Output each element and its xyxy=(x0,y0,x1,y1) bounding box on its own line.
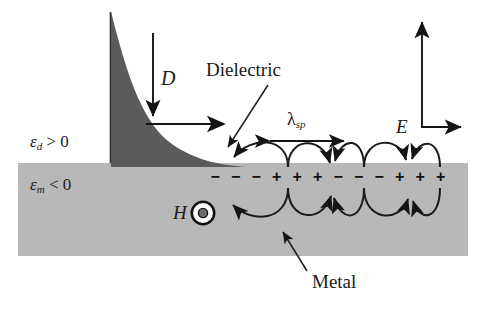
negative-charge-symbol: − xyxy=(369,169,390,185)
dielectric-label: Dielectric xyxy=(206,60,281,79)
metal-label: Metal xyxy=(312,272,356,291)
negative-charge-symbol: − xyxy=(349,169,370,185)
field-decay-profile xyxy=(111,12,248,167)
epsilon-symbol: ε xyxy=(30,132,37,151)
epsilon-subscript: m xyxy=(37,183,45,195)
positive-charge-symbol: + xyxy=(308,169,329,185)
positive-charge-symbol: + xyxy=(267,169,288,185)
lambda-subscript: sp xyxy=(296,118,306,130)
positive-charge-symbol: + xyxy=(390,169,411,185)
epsilon-relation: > 0 xyxy=(46,132,68,151)
lambda-symbol: λ xyxy=(287,109,296,129)
positive-charge-symbol: + xyxy=(431,169,452,185)
dielectric-leader-line xyxy=(228,85,268,147)
positive-charge-symbol: + xyxy=(410,169,431,185)
negative-charge-symbol: − xyxy=(226,169,247,185)
spp-wavelength-label: λsp xyxy=(287,110,306,130)
magnetic-field-label: H xyxy=(173,203,187,222)
interface-charge-row: −−−+++−−−+++ xyxy=(205,169,451,185)
diagram-graphics xyxy=(0,0,489,316)
magnetic-field-out-of-page-icon xyxy=(192,202,215,225)
displacement-field-label: D xyxy=(161,68,175,88)
epsilon-metal-label: εm < 0 xyxy=(30,176,71,195)
epsilon-symbol: ε xyxy=(30,175,37,194)
negative-charge-symbol: − xyxy=(205,169,226,185)
epsilon-dielectric-label: εd > 0 xyxy=(30,133,69,152)
negative-charge-symbol: − xyxy=(328,169,349,185)
epsilon-relation: < 0 xyxy=(49,175,71,194)
figure-canvas: εd > 0 εm < 0 D Dielectric Metal λsp E H… xyxy=(0,0,489,316)
positive-charge-symbol: + xyxy=(287,169,308,185)
electric-field-label: E xyxy=(396,117,408,136)
negative-charge-symbol: − xyxy=(246,169,267,185)
